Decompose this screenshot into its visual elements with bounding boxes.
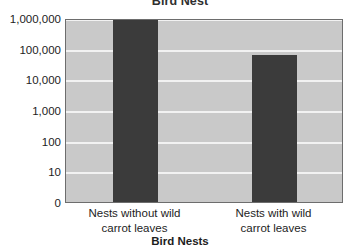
x-tick-label: Nests without wildcarrot leaves xyxy=(65,206,204,235)
x-tick-label-line: Nests with wild xyxy=(204,206,343,221)
x-axis: Nests without wildcarrot leavesNests wit… xyxy=(65,206,343,238)
gridline xyxy=(66,80,342,82)
bar xyxy=(113,19,158,202)
x-tick-label-line: carrot leaves xyxy=(204,221,343,236)
gridline xyxy=(66,172,342,174)
y-tick-label: 1,000,000 xyxy=(10,13,61,25)
bar-chart-figure: Bird Nest 1,000,000100,00010,0001,000100… xyxy=(0,0,360,251)
y-tick-label: 10 xyxy=(48,166,61,178)
bar xyxy=(252,55,297,202)
y-tick-label: 0 xyxy=(55,197,61,209)
chart-title: Bird Nest xyxy=(0,0,360,8)
y-axis: 1,000,000100,00010,0001,000100100 xyxy=(0,19,61,203)
x-tick-label-line: Nests without wild xyxy=(65,206,204,221)
gridline xyxy=(66,19,342,21)
x-axis-title: Bird Nests xyxy=(0,235,360,247)
plot-area xyxy=(65,19,343,203)
x-tick-label: Nests with wildcarrot leaves xyxy=(204,206,343,235)
y-tick-label: 100,000 xyxy=(19,44,61,56)
gridline xyxy=(66,111,342,113)
gridline xyxy=(66,142,342,144)
x-tick-label-line: carrot leaves xyxy=(65,221,204,236)
y-tick-label: 10,000 xyxy=(26,74,61,86)
gridline xyxy=(66,50,342,52)
y-tick-label: 1,000 xyxy=(32,105,61,117)
y-tick-label: 100 xyxy=(42,136,61,148)
